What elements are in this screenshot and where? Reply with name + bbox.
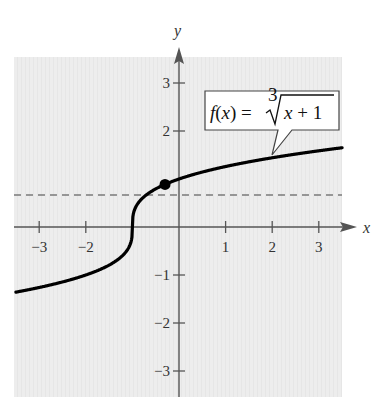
y-tick-label: −2 — [154, 315, 170, 331]
x-tick-label: −3 — [31, 239, 47, 255]
x-tick-label: 3 — [315, 239, 323, 255]
formula-root-index: 3 — [268, 84, 278, 105]
formula-radicand: x + 1 — [283, 102, 322, 123]
y-tick-label: 2 — [163, 123, 171, 139]
x-tick-label: −2 — [78, 239, 94, 255]
y-tick-label: −3 — [154, 363, 170, 379]
x-tick-label: 1 — [222, 239, 230, 255]
y-tick-label: −1 — [154, 267, 170, 283]
cube-root-graph: −3−2123 x 32−1−2−3 y f(x) = 3 x + 1 — [0, 0, 384, 416]
marked-point — [160, 179, 171, 190]
y-axis-label: y — [172, 22, 182, 40]
x-axis-label: x — [362, 219, 370, 236]
y-tick-label: 3 — [163, 75, 171, 91]
formula-label: f(x) = — [210, 102, 252, 124]
x-tick-label: 2 — [268, 239, 276, 255]
